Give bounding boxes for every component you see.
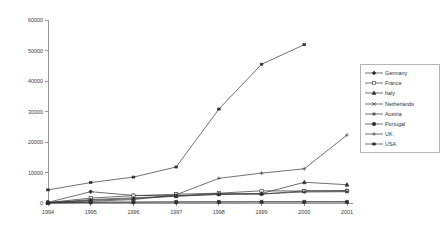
legend-marker-plus-icon — [364, 129, 384, 139]
legend-item-uk[interactable]: UK — [364, 129, 437, 139]
y-axis: 0100002000030000400005000060000 — [28, 17, 48, 206]
legend-item-label: Germany — [385, 68, 407, 78]
legend-item-netherlands[interactable]: Netherlands — [364, 99, 437, 109]
chart-legend: GermanyFranceItalyNetherlandsAustriaPort… — [360, 64, 440, 153]
legend-item-label: France — [385, 78, 402, 88]
x-tick-label: 2000 — [298, 209, 310, 215]
y-tick-label: 0 — [40, 200, 43, 206]
legend-marker-open-square-icon — [364, 78, 384, 88]
x-tick-label: 1994 — [42, 209, 54, 215]
y-tick-label: 60000 — [28, 17, 43, 23]
legend-marker-filled-circle-icon — [364, 119, 384, 129]
series-usa — [47, 44, 306, 191]
legend-item-label: UK — [385, 129, 393, 139]
y-tick-label: 20000 — [28, 139, 43, 145]
legend-item-italy[interactable]: Italy — [364, 88, 437, 98]
legend-marker-filled-triangle-icon — [364, 88, 384, 98]
legend-item-label: Netherlands — [385, 99, 414, 109]
legend-item-austria[interactable]: Austria — [364, 109, 437, 119]
x-tick-label: 2001 — [341, 209, 353, 215]
legend-item-portugal[interactable]: Portugal — [364, 119, 437, 129]
legend-item-germany[interactable]: Germany — [364, 68, 437, 78]
y-tick-label: 10000 — [28, 170, 43, 176]
x-tick-label: 1995 — [85, 209, 97, 215]
legend-marker-filled-diamond-icon — [364, 68, 384, 78]
x-tick-label: 1999 — [256, 209, 268, 215]
legend-item-label: Italy — [385, 88, 395, 98]
y-tick-label: 30000 — [28, 109, 43, 115]
legend-marker-asterisk-icon — [364, 109, 384, 119]
legend-marker-small-dash-icon — [364, 139, 384, 149]
series-layer — [46, 44, 349, 205]
x-axis: 19941995199619971998199920002001 — [42, 203, 353, 215]
x-tick-label: 1998 — [213, 209, 225, 215]
legend-item-label: Portugal — [385, 119, 405, 129]
legend-item-label: Austria — [385, 109, 402, 119]
legend-item-label: USA — [385, 139, 396, 149]
legend-marker-cross-x-icon — [364, 99, 384, 109]
x-tick-label: 1997 — [170, 209, 182, 215]
legend-item-usa[interactable]: USA — [364, 139, 437, 149]
line-chart: 0100002000030000400005000060000 19941995… — [0, 0, 445, 237]
x-tick-label: 1996 — [127, 209, 139, 215]
y-tick-label: 50000 — [28, 48, 43, 54]
y-tick-label: 40000 — [28, 78, 43, 84]
legend-item-france[interactable]: France — [364, 78, 437, 88]
